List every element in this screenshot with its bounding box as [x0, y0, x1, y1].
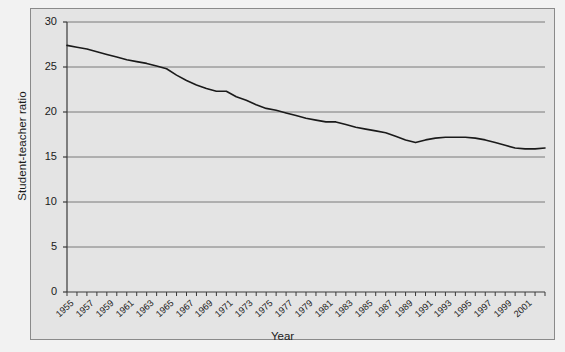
y-tick-label: 20: [27, 105, 57, 117]
gridlines-group: [67, 22, 545, 247]
plot-canvas: [0, 0, 565, 352]
y-tick-label: 30: [27, 15, 57, 27]
y-tick-label: 10: [27, 195, 57, 207]
y-tick-label: 25: [27, 60, 57, 72]
y-tick-label: 0: [27, 285, 57, 297]
chart-figure: Student-teacher ratio Year 051015202530 …: [0, 0, 565, 352]
data-series-line: [67, 45, 545, 148]
y-tick-label: 15: [27, 150, 57, 162]
y-tick-label: 5: [27, 240, 57, 252]
